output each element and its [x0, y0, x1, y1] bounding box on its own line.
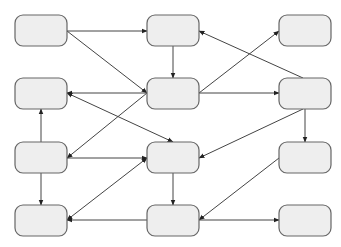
node-box[interactable]	[147, 78, 199, 109]
node-box[interactable]	[147, 205, 199, 236]
node-box[interactable]	[15, 205, 67, 236]
node-box[interactable]	[279, 142, 331, 173]
node-n5[interactable]	[147, 78, 199, 109]
node-box[interactable]	[147, 15, 199, 46]
node-n3[interactable]	[279, 15, 331, 46]
node-n7[interactable]	[15, 142, 67, 173]
edges-layer	[41, 31, 305, 220]
flow-diagram	[0, 0, 341, 247]
node-n8[interactable]	[147, 142, 199, 173]
node-n9[interactable]	[279, 142, 331, 173]
node-n11[interactable]	[147, 205, 199, 236]
node-box[interactable]	[147, 142, 199, 173]
node-box[interactable]	[15, 15, 67, 46]
edge-n5-to-n7	[67, 93, 147, 158]
node-n4[interactable]	[15, 78, 67, 109]
edge-n9-to-n11	[199, 158, 279, 220]
edge-n10-to-n8	[67, 158, 147, 220]
node-n10[interactable]	[15, 205, 67, 236]
node-n1[interactable]	[15, 15, 67, 46]
node-box[interactable]	[279, 15, 331, 46]
node-n12[interactable]	[279, 205, 331, 236]
node-n2[interactable]	[147, 15, 199, 46]
node-box[interactable]	[279, 78, 331, 109]
node-box[interactable]	[15, 142, 67, 173]
node-n6[interactable]	[279, 78, 331, 109]
node-box[interactable]	[15, 78, 67, 109]
node-box[interactable]	[279, 205, 331, 236]
diagram-canvas	[0, 0, 341, 247]
edge-n1-to-n5	[67, 31, 147, 93]
